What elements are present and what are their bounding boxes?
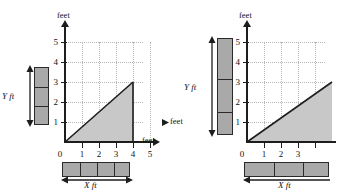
vertical-dimension-arrow-left xyxy=(24,62,36,132)
y-tick-label-1: 1 xyxy=(48,118,58,127)
y-tick-1 xyxy=(243,122,249,123)
x-tick-1 xyxy=(264,142,265,148)
y-tick-label-5: 5 xyxy=(48,38,58,47)
y-axis-right xyxy=(246,26,248,143)
y-tick-label-2: 2 xyxy=(48,98,58,107)
vertical-dimension-arrow-right xyxy=(206,33,218,141)
figure-right: feet 1 2 3 4 5 1 2 3 xyxy=(182,0,340,192)
x-tick-label-2: 2 xyxy=(276,150,286,159)
y-axis-arrow-icon-right xyxy=(243,20,251,27)
y-axis-arrow-icon-left xyxy=(61,20,69,27)
y-tick-3 xyxy=(61,82,67,83)
x-axis-left xyxy=(64,141,154,143)
y-tick-5 xyxy=(61,42,67,43)
x-tick-3 xyxy=(298,142,299,148)
bar-divider xyxy=(35,106,48,107)
x-axis-right xyxy=(246,141,336,143)
x-axis-caption-right-continued: feet xyxy=(170,117,183,126)
horizontal-bar-label-right: X ft xyxy=(278,180,291,190)
vertical-measure-bar-left xyxy=(34,67,49,125)
x-tick-1 xyxy=(82,142,83,148)
x-tick-label-3: 3 xyxy=(111,150,121,159)
x-axis-caption-left: feet xyxy=(142,136,155,145)
y-tick-4 xyxy=(61,62,67,63)
x-tick-3 xyxy=(116,142,117,148)
horizontal-bar-label-left: X ft xyxy=(84,180,97,190)
y-tick-label-3: 3 xyxy=(48,78,58,87)
vertical-bar-label-left: Y ft xyxy=(2,91,14,101)
x-tick-4 xyxy=(315,142,316,148)
y-tick-2 xyxy=(243,102,249,103)
y-tick-5 xyxy=(243,42,249,43)
x-tick-label-4: 4 xyxy=(128,150,138,159)
origin-label-right: 0 xyxy=(237,150,247,159)
vertical-bar-label-right: Y ft xyxy=(184,82,196,92)
bar-divider xyxy=(218,112,232,113)
x-tick-label-2: 2 xyxy=(94,150,104,159)
x-axis-arrow-icon-right-continued xyxy=(160,118,170,128)
origin-label-left: 0 xyxy=(55,150,65,159)
y-tick-3 xyxy=(243,82,249,83)
horizontal-dimension-arrow-left xyxy=(58,175,136,187)
y-tick-label-4: 4 xyxy=(48,58,58,67)
x-tick-label-5: 5 xyxy=(145,150,155,159)
y-tick-4 xyxy=(243,62,249,63)
x-tick-label-1: 1 xyxy=(259,150,269,159)
vertical-measure-bar-right xyxy=(217,38,233,135)
figure-left: feet 1 2 3 4 5 xyxy=(0,0,162,192)
bar-divider xyxy=(218,79,232,80)
x-tick-label-3: 3 xyxy=(293,150,303,159)
x-tick-2 xyxy=(281,142,282,148)
x-tick-label-1: 1 xyxy=(77,150,87,159)
bar-divider xyxy=(35,87,48,88)
y-tick-2 xyxy=(61,102,67,103)
x-tick-2 xyxy=(99,142,100,148)
y-tick-1 xyxy=(61,122,67,123)
x-tick-4 xyxy=(133,142,134,148)
y-axis-left xyxy=(64,26,66,143)
